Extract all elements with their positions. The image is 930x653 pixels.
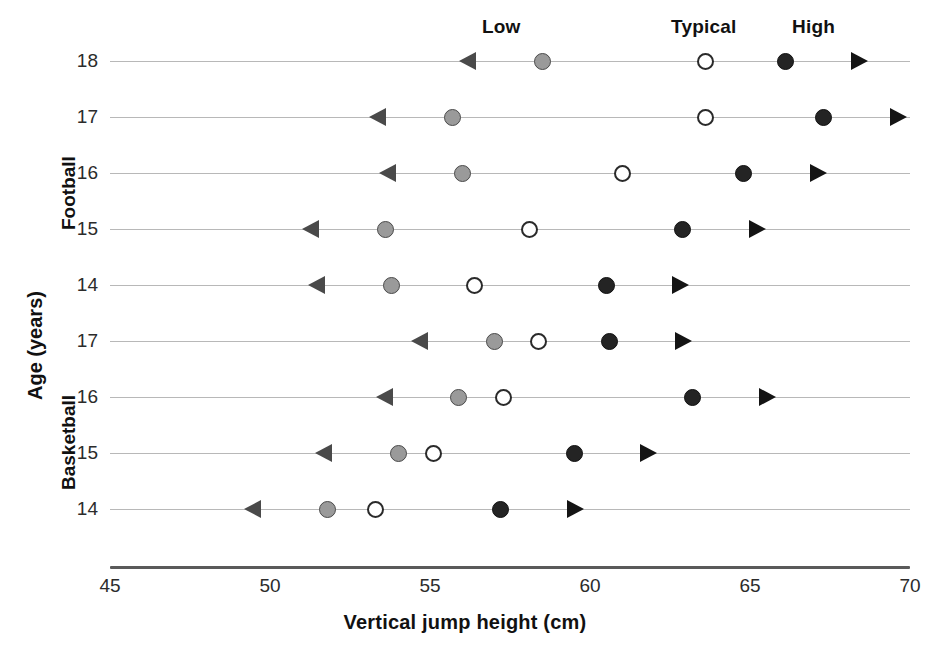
left-arrowhead	[369, 108, 386, 126]
chart-row: 16	[0, 383, 930, 413]
gridline	[110, 117, 910, 118]
left-arrowhead	[459, 52, 476, 70]
low-marker	[444, 109, 461, 126]
chart-row: 15	[0, 439, 930, 469]
x-axis-tick-label: 50	[240, 575, 300, 597]
low-marker	[450, 389, 467, 406]
y-axis-tick-label: 17	[58, 330, 98, 352]
chart-row: 17	[0, 327, 930, 357]
high-marker	[492, 501, 509, 518]
right-arrowhead	[672, 276, 689, 294]
left-arrowhead	[315, 444, 332, 462]
high-arrow	[744, 171, 811, 176]
x-axis-tick-label: 70	[880, 575, 930, 597]
low-marker	[454, 165, 471, 182]
high-marker	[684, 389, 701, 406]
left-arrowhead	[376, 388, 393, 406]
left-arrowhead	[411, 332, 428, 350]
chart-row: 14	[0, 495, 930, 525]
gridline	[110, 229, 910, 230]
typical-marker	[530, 333, 547, 350]
typical-marker	[466, 277, 483, 294]
right-arrowhead	[759, 388, 776, 406]
high-marker	[815, 109, 832, 126]
x-axis-title: Vertical jump height (cm)	[0, 611, 930, 634]
high-marker	[674, 221, 691, 238]
right-arrowhead	[851, 52, 868, 70]
typical-marker	[495, 389, 512, 406]
gridline	[110, 453, 910, 454]
y-axis-tick-label: 15	[58, 218, 98, 240]
chart-row: 15	[0, 215, 930, 245]
x-axis-tick-label: 45	[80, 575, 140, 597]
high-arrow	[574, 451, 641, 456]
typical-marker	[521, 221, 538, 238]
left-arrowhead	[308, 276, 325, 294]
low-arrow	[324, 283, 391, 288]
y-axis-tick-label: 17	[58, 106, 98, 128]
low-arrow	[392, 395, 459, 400]
figure-bottom-edge	[0, 645, 930, 653]
low-arrow	[331, 451, 398, 456]
left-arrowhead	[379, 164, 396, 182]
low-arrow	[475, 59, 542, 64]
typical-marker	[697, 109, 714, 126]
high-marker	[598, 277, 615, 294]
y-axis-tick-label: 14	[58, 498, 98, 520]
high-arrow	[609, 339, 676, 344]
chart-row: 16	[0, 159, 930, 189]
low-arrow	[318, 227, 385, 232]
high-arrow	[824, 115, 891, 120]
right-arrowhead	[810, 164, 827, 182]
chart-row: 18	[0, 47, 930, 77]
high-arrow	[683, 227, 750, 232]
high-arrow	[692, 395, 759, 400]
chart-row: 14	[0, 271, 930, 301]
high-marker	[777, 53, 794, 70]
gridline	[110, 341, 910, 342]
low-arrow	[427, 339, 494, 344]
y-axis-tick-label: 18	[58, 50, 98, 72]
high-arrow	[785, 59, 852, 64]
right-arrowhead	[675, 332, 692, 350]
x-axis-line	[110, 566, 910, 569]
left-arrowhead	[244, 500, 261, 518]
low-marker	[534, 53, 551, 70]
low-arrow	[395, 171, 462, 176]
low-marker	[390, 445, 407, 462]
chart-row: 17	[0, 103, 930, 133]
low-marker	[377, 221, 394, 238]
y-axis-tick-label: 16	[58, 162, 98, 184]
gridline	[110, 285, 910, 286]
typical-marker	[614, 165, 631, 182]
low-marker	[486, 333, 503, 350]
typical-marker	[697, 53, 714, 70]
vertical-jump-height-chart: Low Typical High Age (years) Football Ba…	[0, 0, 930, 653]
x-axis-tick-label: 65	[720, 575, 780, 597]
high-marker	[735, 165, 752, 182]
low-marker	[319, 501, 336, 518]
y-axis-tick-label: 14	[58, 274, 98, 296]
low-arrow	[385, 115, 452, 120]
right-arrowhead	[567, 500, 584, 518]
plot-area: 181716151417161514	[0, 0, 930, 653]
high-arrow	[606, 283, 673, 288]
right-arrowhead	[749, 220, 766, 238]
high-marker	[601, 333, 618, 350]
high-arrow	[500, 507, 567, 512]
x-axis-tick-label: 55	[400, 575, 460, 597]
left-arrowhead	[302, 220, 319, 238]
right-arrowhead	[890, 108, 907, 126]
y-axis-tick-label: 15	[58, 442, 98, 464]
y-axis-tick-label: 16	[58, 386, 98, 408]
typical-marker	[367, 501, 384, 518]
typical-marker	[425, 445, 442, 462]
x-axis-tick-label: 60	[560, 575, 620, 597]
low-marker	[383, 277, 400, 294]
right-arrowhead	[640, 444, 657, 462]
low-arrow	[260, 507, 327, 512]
high-marker	[566, 445, 583, 462]
